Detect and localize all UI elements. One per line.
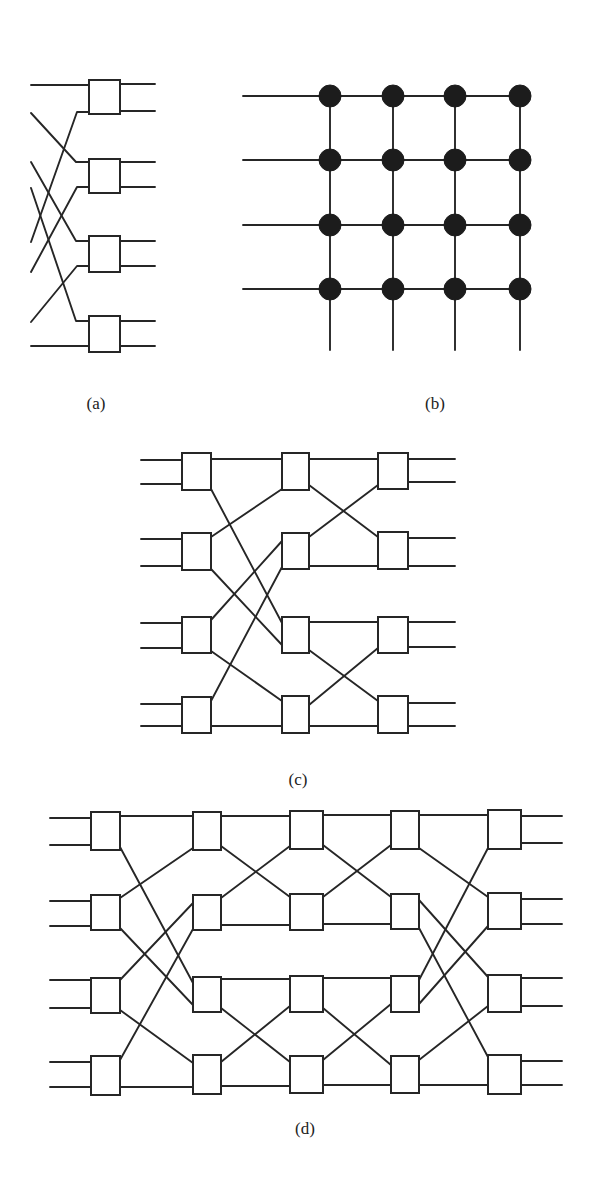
crosspoint-node: [444, 85, 466, 107]
switch-box: [378, 696, 408, 733]
switch-box: [488, 893, 521, 929]
crosspoint-node: [382, 85, 404, 107]
switch-box: [182, 533, 211, 570]
wire: [419, 848, 488, 980]
switch-box: [391, 976, 419, 1012]
switch-box: [282, 696, 309, 733]
crosspoint-node: [319, 214, 341, 236]
switch-box: [391, 811, 419, 849]
switch-box: [193, 977, 221, 1012]
switch-box: [89, 236, 120, 272]
wire: [419, 1006, 488, 1060]
crosspoint-node: [444, 214, 466, 236]
switch-box: [182, 617, 211, 653]
switch-box: [182, 697, 211, 733]
panel-d-five-stage-network: [50, 810, 562, 1095]
switch-box: [91, 812, 120, 850]
switch-box: [488, 810, 521, 849]
caption-b: (b): [425, 394, 445, 414]
wire: [31, 162, 89, 241]
wire: [31, 113, 89, 162]
switch-box: [290, 811, 323, 849]
switch-box: [488, 975, 521, 1012]
caption-d: (d): [295, 1119, 315, 1139]
wire: [323, 1004, 391, 1060]
wire: [211, 651, 282, 701]
crosspoint-node: [509, 278, 531, 300]
crosspoint-node: [319, 85, 341, 107]
panel-a-switch-network: [31, 80, 155, 352]
crosspoint-node: [509, 149, 531, 171]
wire: [31, 187, 89, 272]
switch-box: [193, 812, 221, 850]
crosspoint-node: [509, 85, 531, 107]
caption-c: (c): [289, 770, 308, 790]
interconnection-network-figure: [0, 0, 593, 1185]
wire: [120, 848, 193, 898]
crosspoint-node: [444, 149, 466, 171]
switch-box: [488, 1055, 521, 1094]
caption-a: (a): [87, 394, 106, 414]
switch-box: [91, 895, 120, 930]
switch-box: [193, 1055, 221, 1094]
panel-c-three-stage-network: [141, 453, 455, 733]
crosspoint-node: [509, 214, 531, 236]
switch-box: [91, 978, 120, 1013]
wire: [211, 489, 282, 537]
switch-box: [282, 533, 309, 569]
switch-box: [182, 453, 211, 490]
switch-box: [290, 976, 323, 1012]
crosspoint-node: [382, 149, 404, 171]
wire: [120, 1010, 193, 1063]
switch-box: [91, 1056, 120, 1095]
switch-box: [378, 617, 408, 653]
switch-box: [89, 316, 120, 352]
switch-box: [391, 894, 419, 929]
switch-box: [378, 453, 408, 489]
crosspoint-node: [382, 278, 404, 300]
wire: [211, 489, 282, 623]
switch-box: [391, 1056, 419, 1093]
crosspoint-node: [444, 278, 466, 300]
switch-box: [378, 532, 408, 569]
crosspoint-node: [319, 149, 341, 171]
switch-box: [89, 159, 120, 193]
switch-box: [193, 895, 221, 930]
wire: [323, 1008, 391, 1065]
switch-box: [282, 453, 309, 490]
panel-b-crossbar-grid: [243, 85, 531, 350]
crosspoint-node: [382, 214, 404, 236]
wire: [419, 848, 488, 897]
switch-box: [290, 894, 323, 930]
switch-box: [282, 617, 309, 653]
switch-box: [290, 1056, 323, 1093]
crosspoint-node: [319, 278, 341, 300]
switch-box: [89, 80, 120, 114]
